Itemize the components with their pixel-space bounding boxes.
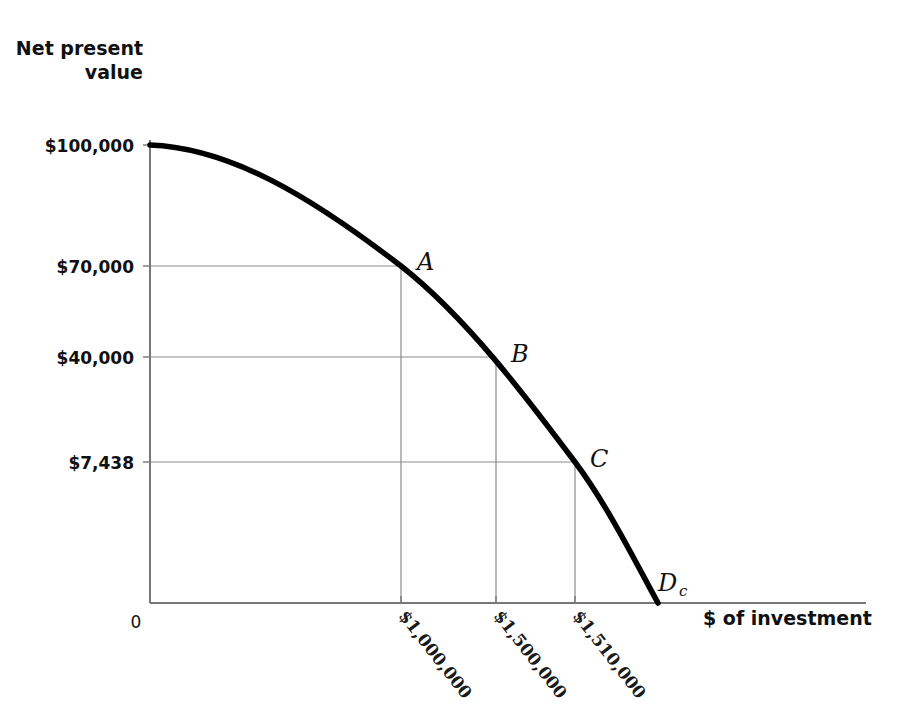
y-tick-label-40000: $40,000 (57, 348, 135, 368)
y-axis-title-line2: value (85, 61, 143, 83)
y-tick-label-70000: $70,000 (57, 257, 135, 277)
point-label-c: C (590, 445, 608, 473)
point-label-b: B (510, 340, 529, 368)
y-tick-label-100000: $100,000 (45, 136, 134, 156)
point-label-a: A (415, 248, 434, 276)
point-label-d-subscript: c (679, 582, 688, 600)
y-tick-label-7438: $7,438 (68, 453, 134, 473)
x-tick-label-1000000: $1,000,000 (395, 606, 476, 702)
y-axis-title-line1: Net present (16, 37, 143, 59)
point-label-d: D (657, 569, 677, 597)
chart-canvas: Net present value $100,000 $70,000 $40,0… (0, 0, 906, 725)
npv-curve (150, 145, 658, 603)
npv-chart: Net present value $100,000 $70,000 $40,0… (0, 0, 906, 725)
x-tick-label-1500000: $1,500,000 (490, 606, 571, 702)
x-tick-label-1510000: $1,510,000 (569, 606, 650, 702)
origin-label: 0 (131, 612, 142, 632)
x-axis-title: $ of investment (703, 607, 872, 629)
